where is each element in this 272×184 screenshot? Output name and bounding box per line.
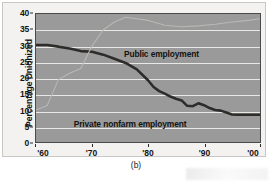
y-tick-label: 15	[20, 90, 29, 99]
y-axis-ticks: 0510152025303540	[3, 13, 33, 143]
y-tick-mark	[30, 94, 33, 95]
figure-frame: Percentage Unionized 0510152025303540 Pu…	[2, 2, 266, 157]
y-tick-mark	[30, 61, 33, 62]
y-tick-mark	[30, 126, 33, 127]
plot-wrapper: Public employment Private nonfarm employ…	[35, 13, 261, 143]
series-line	[36, 17, 260, 110]
annotation-private-nonfarm-employment: Private nonfarm employment	[74, 119, 187, 129]
x-tick-label: '90	[199, 149, 210, 158]
x-tick-mark	[148, 144, 149, 147]
x-tick-label: '70	[86, 149, 97, 158]
y-tick-mark	[30, 45, 33, 46]
x-tick-label: '00	[247, 149, 258, 158]
x-tick-mark	[205, 144, 206, 147]
figure-panel-b: Percentage Unionized 0510152025303540 Pu…	[0, 0, 272, 184]
y-tick-mark	[30, 13, 33, 14]
x-tick-mark	[35, 144, 36, 147]
annotation-public-employment: Public employment	[124, 49, 199, 59]
figure-caption: (b)	[0, 160, 272, 170]
y-tick-label: 0	[24, 139, 29, 148]
x-tick-mark	[92, 144, 93, 147]
y-tick-label: 10	[20, 106, 29, 115]
y-tick-mark	[30, 78, 33, 79]
y-tick-label: 30	[20, 41, 29, 50]
y-tick-label: 25	[20, 58, 29, 67]
y-tick-mark	[30, 110, 33, 111]
y-tick-label: 5	[24, 123, 29, 132]
y-tick-label: 35	[20, 25, 29, 34]
plot-area: Public employment Private nonfarm employ…	[35, 13, 261, 143]
y-tick-label: 20	[20, 74, 29, 83]
y-tick-label: 40	[20, 9, 29, 18]
x-tick-label: '60	[37, 149, 48, 158]
x-tick-label: '80	[142, 149, 153, 158]
x-tick-mark	[260, 144, 261, 147]
x-axis-ticks: '60'70'80'90'00	[35, 144, 261, 160]
y-tick-mark	[30, 29, 33, 30]
y-tick-mark	[30, 143, 33, 144]
